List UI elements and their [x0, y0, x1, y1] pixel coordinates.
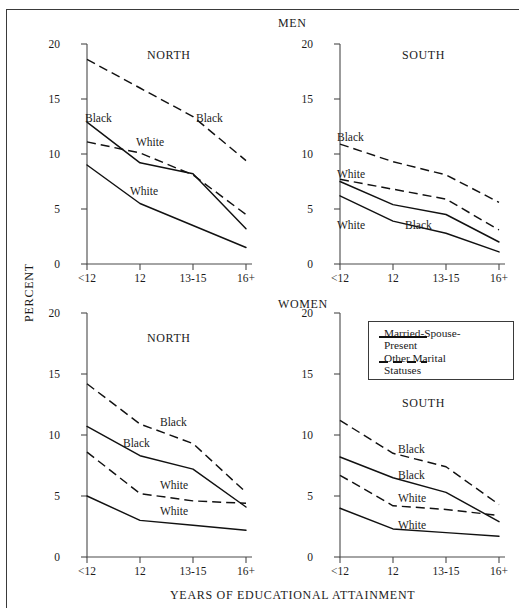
series-label-men-south-white-other: White — [337, 168, 365, 180]
xtick-men-north-16plus: 16+ — [226, 272, 266, 284]
ytick-men-north-20: 20 — [38, 38, 60, 50]
series-label-men-south-black-married: Black — [405, 219, 432, 231]
xtick-men-south-lt12: <12 — [320, 272, 360, 284]
ytick-women-north-10: 10 — [38, 429, 60, 441]
xtick-women-south-12: 12 — [373, 565, 413, 577]
xtick-women-north-12: 12 — [120, 565, 160, 577]
series-label-men-south-white-married: White — [337, 219, 365, 231]
panel-title-women-north: NORTH — [147, 331, 191, 346]
ytick-men-north-5: 5 — [38, 203, 60, 215]
ytick-men-north-15: 15 — [38, 93, 60, 105]
panel-title-women-south: SOUTH — [402, 396, 445, 411]
ytick-men-south-0: 0 — [291, 258, 313, 270]
ytick-men-south-15: 15 — [291, 93, 313, 105]
series-label-women-north-white-married: White — [160, 505, 188, 517]
x-axis-title: YEARS OF EDUCATIONAL ATTAINMENT — [170, 588, 415, 603]
series-label-women-south-black-married: Black — [398, 469, 425, 481]
xtick-women-south-lt12: <12 — [320, 565, 360, 577]
ytick-women-south-0: 0 — [291, 551, 313, 563]
xtick-women-north-16plus: 16+ — [226, 565, 266, 577]
xtick-men-north-1315: 13-15 — [173, 272, 213, 284]
ytick-women-north-15: 15 — [38, 368, 60, 380]
series-line-black-married — [87, 426, 246, 507]
xtick-women-north-1315: 13-15 — [173, 565, 213, 577]
series-label-men-north-black-other: Black — [85, 112, 112, 124]
xtick-men-north-12: 12 — [120, 272, 160, 284]
ytick-men-south-10: 10 — [291, 148, 313, 160]
series-line-black-other — [87, 59, 246, 160]
xtick-women-south-16plus: 16+ — [479, 565, 519, 577]
ytick-women-south-20: 20 — [291, 307, 313, 319]
ytick-women-north-0: 0 — [38, 551, 60, 563]
ytick-women-south-5: 5 — [291, 490, 313, 502]
panel-title-men-north: NORTH — [147, 48, 191, 63]
ytick-women-south-15: 15 — [291, 368, 313, 380]
series-label-men-north-black-married: Black — [196, 112, 223, 124]
series-label-women-south-white-married: White — [398, 519, 426, 531]
xtick-men-north-lt12: <12 — [67, 272, 107, 284]
ytick-men-north-10: 10 — [38, 148, 60, 160]
series-label-women-north-white-other: White — [160, 479, 188, 491]
series-line-white-married — [87, 165, 246, 248]
series-label-men-south-black-other: Black — [337, 131, 364, 143]
series-label-women-north-black-other: Black — [160, 416, 187, 428]
legend-swatch-dashed — [377, 353, 429, 369]
series-line-black-married — [87, 122, 246, 229]
ytick-women-north-20: 20 — [38, 307, 60, 319]
series-label-men-north-white-other: White — [136, 136, 164, 148]
xtick-women-south-1315: 13-15 — [426, 565, 466, 577]
series-line-white-other — [87, 452, 246, 503]
xtick-men-south-16plus: 16+ — [479, 272, 519, 284]
panel-women-north — [81, 313, 252, 563]
series-line-black-married — [340, 457, 499, 522]
xtick-women-north-lt12: <12 — [67, 565, 107, 577]
legend-swatch-solid — [377, 328, 429, 344]
series-line-black-other — [87, 384, 246, 493]
xtick-men-south-12: 12 — [373, 272, 413, 284]
legend: Married-Spouse- Present Other Marital St… — [368, 321, 514, 380]
figure-container: MEN WOMEN NORTH SOUTH NORTH SOUTH PERCEN… — [0, 0, 519, 608]
ytick-women-south-10: 10 — [291, 429, 313, 441]
panel-men-south — [334, 44, 505, 270]
panel-men-north — [81, 44, 252, 270]
group-title-men: MEN — [278, 16, 306, 31]
panel-title-men-south: SOUTH — [402, 48, 445, 63]
series-label-men-north-white-married: White — [130, 185, 158, 197]
ytick-men-north-0: 0 — [38, 258, 60, 270]
legend-entry-other: Other Marital Statuses — [377, 353, 446, 376]
y-axis-title: PERCENT — [22, 263, 37, 322]
ytick-men-south-20: 20 — [291, 38, 313, 50]
series-label-women-north-black-married: Black — [123, 437, 150, 449]
series-label-women-south-white-other: White — [398, 492, 426, 504]
series-label-women-south-black-other: Black — [398, 443, 425, 455]
legend-entry-married: Married-Spouse- Present — [377, 328, 461, 351]
ytick-men-south-5: 5 — [291, 203, 313, 215]
ytick-women-north-5: 5 — [38, 490, 60, 502]
xtick-men-south-1315: 13-15 — [426, 272, 466, 284]
plot-surface — [0, 0, 519, 608]
